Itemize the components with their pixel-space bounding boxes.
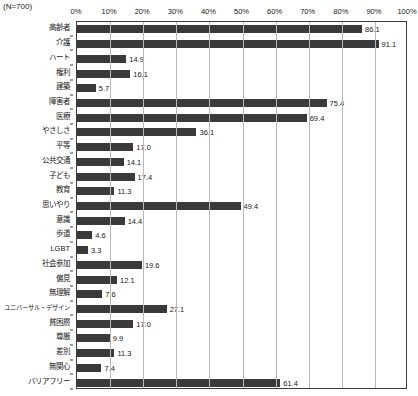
category-tick <box>70 271 73 272</box>
bar-value-label: 61.4 <box>280 378 298 387</box>
category-tick <box>70 300 73 301</box>
category-axis: 高齢者介護ハート権利建築障害者医療やさしさ平等公共交通子ども教育思いやり意識歩道… <box>0 21 73 389</box>
gridline <box>375 22 376 388</box>
bar <box>77 70 130 78</box>
bar-value-label: 9.9 <box>110 334 123 343</box>
bar <box>77 55 126 63</box>
bar-row: 7.6 <box>77 287 406 302</box>
bar-value-label: 36.1 <box>196 128 214 137</box>
x-tick-label: 60% <box>267 7 282 17</box>
category-tick <box>70 241 73 242</box>
category-label: やさしさ <box>42 126 70 136</box>
plot-area: 86.191.114.916.15.775.469.436.117.014.11… <box>76 21 407 389</box>
category-tick <box>70 374 73 375</box>
category-tick <box>70 109 73 110</box>
bar-row: 27.1 <box>77 302 406 317</box>
category-label: 教育 <box>56 185 70 195</box>
category-label: ハート <box>49 53 70 63</box>
category-tick <box>70 315 73 316</box>
bar-row: 3.3 <box>77 243 406 258</box>
bar-row: 36.1 <box>77 125 406 140</box>
category-tick <box>70 124 73 125</box>
bar <box>77 173 135 181</box>
bar <box>77 349 114 357</box>
category-tick <box>70 35 73 36</box>
category-label: バリアフリー <box>28 377 70 387</box>
category-label: 偏見 <box>56 274 70 284</box>
x-tick-label: 50% <box>234 7 249 17</box>
category-tick <box>70 344 73 345</box>
category-tick <box>70 50 73 51</box>
category-label: 権利 <box>56 68 70 78</box>
bar-value-label: 14.1 <box>124 157 142 166</box>
bar-value-label: 16.1 <box>130 69 148 78</box>
category-label: 社会参加 <box>42 259 70 269</box>
bar <box>77 320 133 328</box>
bar-value-label: 14.9 <box>126 54 144 63</box>
bar-rows: 86.191.114.916.15.775.469.436.117.014.11… <box>77 22 406 388</box>
category-label: 高齢者 <box>49 23 70 33</box>
x-tick-label: 30% <box>168 7 183 17</box>
bar-row: 17.0 <box>77 140 406 155</box>
bar-value-label: 4.6 <box>92 231 105 240</box>
x-tick-label: 90% <box>366 7 381 17</box>
category-label: 尊厳 <box>56 332 70 342</box>
bar <box>77 158 124 166</box>
bar <box>77 143 133 151</box>
bar-row: 14.1 <box>77 154 406 169</box>
category-label: 差別 <box>56 347 70 357</box>
bar <box>77 334 110 342</box>
bar-value-label: 91.1 <box>379 40 397 49</box>
gridline <box>342 22 343 388</box>
sample-size-note: (N=700) <box>3 2 32 12</box>
bar-row: 86.1 <box>77 22 406 37</box>
bar <box>77 99 327 107</box>
bar-value-label: 86.1 <box>362 25 380 34</box>
bar <box>77 187 114 195</box>
bar <box>77 40 379 48</box>
bar-row: 69.4 <box>77 110 406 125</box>
category-label: 無関心 <box>49 362 70 372</box>
category-label: 歩道 <box>56 229 70 239</box>
bar <box>77 114 307 122</box>
bar-value-label: 17.0 <box>133 143 151 152</box>
category-tick <box>70 138 73 139</box>
category-tick <box>70 389 73 390</box>
bar-value-label: 11.3 <box>114 349 131 358</box>
category-tick <box>70 285 73 286</box>
bar <box>77 25 362 33</box>
bar-row: 61.4 <box>77 375 406 390</box>
category-label: 意識 <box>56 215 70 225</box>
category-label: 介護 <box>56 38 70 48</box>
category-tick <box>70 153 73 154</box>
category-label: 障害者 <box>49 97 70 107</box>
bar-row: 11.3 <box>77 184 406 199</box>
gridline <box>176 22 177 388</box>
category-label: 建築 <box>56 82 70 92</box>
category-label: 医療 <box>56 112 70 122</box>
x-axis: 0%10%20%30%40%50%60%70%80%90%100% <box>76 7 407 19</box>
bar-row: 17.0 <box>77 316 406 331</box>
bar-row: 7.4 <box>77 361 406 376</box>
category-tick <box>70 212 73 213</box>
bar-chart: (N=700) 0%10%20%30%40%50%60%70%80%90%100… <box>0 0 418 396</box>
gridline <box>110 22 111 388</box>
gridline <box>143 22 144 388</box>
bar-row: 17.4 <box>77 169 406 184</box>
category-label: 無理解 <box>49 288 70 298</box>
category-label: 公共交通 <box>42 156 70 166</box>
bar-row: 75.4 <box>77 96 406 111</box>
bar <box>77 364 101 372</box>
category-tick <box>70 359 73 360</box>
bar-value-label: 7.6 <box>102 290 115 299</box>
x-tick-label: 80% <box>333 7 348 17</box>
category-label: 平等 <box>56 141 70 151</box>
bar-row: 19.6 <box>77 258 406 273</box>
bar-value-label: 14.4 <box>125 216 143 225</box>
x-tick-label: 70% <box>300 7 315 17</box>
gridline <box>209 22 210 388</box>
bar <box>77 290 102 298</box>
bar <box>77 84 96 92</box>
category-tick <box>70 227 73 228</box>
gridline <box>276 22 277 388</box>
